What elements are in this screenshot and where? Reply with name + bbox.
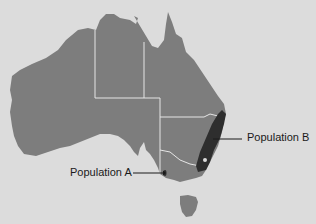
population-a-label: Population A [70,166,132,178]
australia-map [0,0,316,224]
tasmania [180,195,198,217]
mainland-australia [10,12,226,182]
population-b-label: Population B [247,131,309,143]
population-b-gap [203,158,207,162]
